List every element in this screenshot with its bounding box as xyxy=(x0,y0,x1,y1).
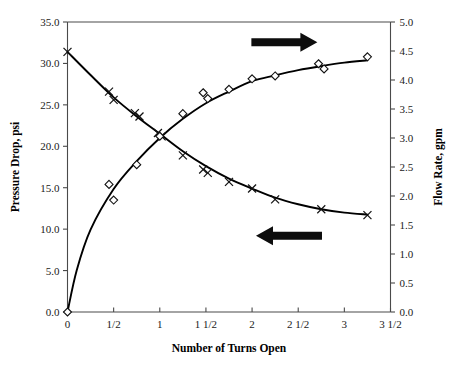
left-tick-label: 35.0 xyxy=(40,16,60,28)
x-tick-label: 2 xyxy=(249,318,255,330)
left-tick-label: 20.0 xyxy=(40,140,60,152)
axes-group xyxy=(68,22,391,312)
data-point-x xyxy=(204,169,212,177)
x-tick-label: 3 xyxy=(342,318,348,330)
right-tick-label: 0.5 xyxy=(400,277,414,289)
series-markers xyxy=(64,48,372,316)
x-tick-label: 1 xyxy=(157,318,163,330)
right-tick-label: 4.5 xyxy=(400,45,414,57)
x-tick-label: 2 1/2 xyxy=(287,318,309,330)
left-axis-ticks: 0.05.010.015.020.025.030.035.0 xyxy=(40,16,67,318)
right-tick-label: 1.5 xyxy=(400,219,414,231)
right-tick-label: 2.0 xyxy=(400,190,414,202)
x-tick-label: 3 1/2 xyxy=(379,318,401,330)
right-tick-label: 1.0 xyxy=(400,248,414,260)
left-tick-label: 30.0 xyxy=(40,57,60,69)
left-axis-title: Pressure Drop, psi xyxy=(9,121,22,212)
data-point-diamond xyxy=(271,72,279,80)
data-point-x xyxy=(179,151,187,159)
right-tick-label: 5.0 xyxy=(400,16,414,28)
data-point-diamond xyxy=(199,89,207,97)
pressure-flow-chart: 0.05.010.015.020.025.030.035.0 0.00.51.0… xyxy=(0,0,459,375)
right-tick-label: 3.0 xyxy=(400,132,414,144)
left-tick-label: 25.0 xyxy=(40,99,60,111)
right-tick-label: 0.0 xyxy=(400,306,414,318)
x-tick-label: 0 xyxy=(65,318,71,330)
chart-container: 0.05.010.015.020.025.030.035.0 0.00.51.0… xyxy=(0,0,459,375)
data-point-diamond xyxy=(64,308,72,316)
right-tick-label: 2.5 xyxy=(400,161,414,173)
right-tick-label: 4.0 xyxy=(400,74,414,86)
data-point-diamond xyxy=(110,196,118,204)
left-tick-label: 0.0 xyxy=(46,306,60,318)
right-tick-label: 3.5 xyxy=(400,103,414,115)
x-axis-ticks: 01/211 1/222 1/233 1/2 xyxy=(65,308,402,331)
x-tick-label: 1 1/2 xyxy=(195,318,217,330)
data-point-diamond xyxy=(133,161,141,169)
right-axis-title: Flow Rate, gpm xyxy=(432,128,445,206)
left-tick-label: 15.0 xyxy=(40,182,60,194)
left-tick-label: 5.0 xyxy=(46,265,60,277)
data-point-x xyxy=(248,185,256,193)
data-point-diamond xyxy=(105,180,113,188)
x-tick-label: 1/2 xyxy=(107,318,121,330)
data-point-x xyxy=(199,165,207,173)
left-tick-label: 10.0 xyxy=(40,223,60,235)
series-curves xyxy=(68,52,368,312)
right-axis-ticks: 0.00.51.01.52.02.53.03.54.04.55.0 xyxy=(391,16,414,318)
x-axis-title: Number of Turns Open xyxy=(172,342,287,355)
annotation-arrows xyxy=(251,33,322,245)
pressure-drop-arrow xyxy=(256,226,322,245)
flow-rate-arrow xyxy=(251,33,317,52)
